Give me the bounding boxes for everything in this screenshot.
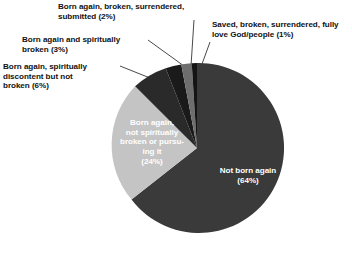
callout-label-submitted: Born again, broken, surrendered, submitt… [58, 2, 208, 21]
slice-label-born-again-not-broken: Born again, not spiritually broken or pu… [109, 118, 195, 167]
callout-label-spiritually-discontent: Born again, spiritually discontent but n… [3, 62, 121, 91]
leader-line-saved [202, 42, 210, 64]
pie-chart-figure: Born again, broken, surrendered, submitt… [0, 0, 352, 255]
leader-line-discontent [120, 66, 150, 78]
leader-line-submitted [191, 20, 194, 66]
slice-label-not-born-again: Not born again (64%) [200, 166, 296, 185]
callout-label-saved: Saved, broken, surrendered, fully love G… [212, 20, 350, 39]
figure-caption [0, 248, 352, 255]
callout-label-born-again-and-broken: Born again and spiritually broken (3%) [22, 35, 150, 54]
leader-line-broken3 [148, 40, 184, 66]
